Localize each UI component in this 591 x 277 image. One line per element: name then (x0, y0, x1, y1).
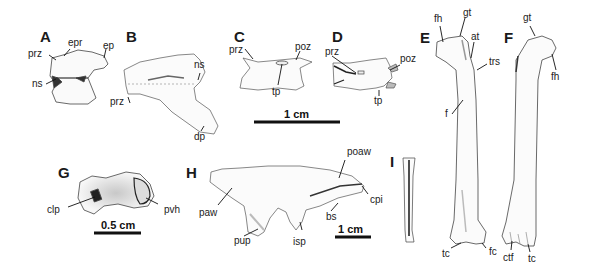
scale-bar-cd-label: 1 cm (284, 109, 309, 120)
label-e-tc: tc (442, 249, 450, 259)
panel-letter-c: C (234, 29, 245, 44)
panel-letter-e: E (420, 30, 430, 45)
panel-letter-i: I (390, 154, 394, 169)
femur-f-drawing (502, 36, 556, 246)
label-c-prz: prz (229, 45, 243, 55)
vertebra-a-drawing (50, 50, 108, 104)
label-e-trs: trs (489, 57, 500, 67)
panel-letter-a: A (40, 29, 51, 44)
panel-letter-d: D (332, 29, 343, 44)
label-a-epr: epr (68, 38, 82, 48)
label-f-gt: gt (523, 13, 531, 23)
label-f-ctf: ctf (503, 253, 514, 263)
scale-bar-g-label: 0.5 cm (101, 220, 135, 231)
femur-e-drawing (436, 36, 486, 244)
panel-letter-b: B (126, 29, 137, 44)
label-h-poaw: poaw (347, 147, 371, 157)
vertebra-d-drawing (333, 58, 398, 90)
label-d-prz: prz (325, 47, 339, 57)
label-b-dp: dp (194, 132, 205, 142)
panel-letter-h: H (186, 165, 197, 180)
label-c-poz: poz (295, 42, 311, 52)
bone-i-drawing (403, 158, 415, 242)
label-g-clp: clp (47, 205, 60, 215)
label-e-f: f (445, 109, 448, 119)
label-g-pvh: pvh (164, 205, 180, 215)
scale-bar-h-label: 1 cm (338, 224, 363, 235)
label-f-fh: fh (551, 72, 559, 82)
label-d-poz: poz (400, 54, 416, 64)
panel-letter-f: F (504, 30, 513, 45)
label-c-tp: tp (272, 87, 280, 97)
panel-letter-g: G (58, 165, 70, 180)
label-e-fc: fc (489, 247, 497, 257)
label-h-bs: bs (326, 212, 337, 222)
label-a-prz: prz (28, 49, 42, 59)
label-e-at: at (471, 32, 479, 42)
label-h-isp: isp (293, 237, 306, 247)
centrum-g-drawing (78, 172, 154, 214)
label-b-ns: ns (194, 60, 205, 70)
label-e-fh: fh (434, 14, 442, 24)
label-a-ns: ns (32, 79, 43, 89)
label-f-tc: tc (528, 254, 536, 264)
label-h-cpi: cpi (370, 195, 383, 205)
label-d-tp: tp (374, 96, 382, 106)
label-h-pup: pup (234, 236, 251, 246)
label-b-prz: prz (110, 97, 124, 107)
label-e-gt: gt (463, 8, 471, 18)
label-h-paw: paw (199, 208, 217, 218)
label-a-ep: ep (103, 41, 114, 51)
